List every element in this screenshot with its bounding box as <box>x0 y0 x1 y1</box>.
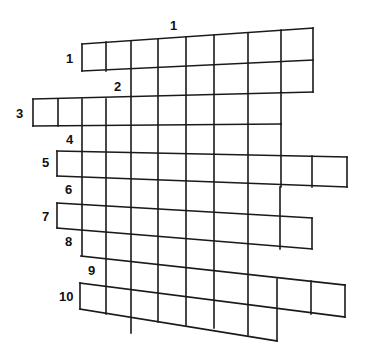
grid-line-horizontal <box>82 60 313 71</box>
grid-line-horizontal <box>57 203 312 218</box>
grid-line-horizontal <box>57 151 347 157</box>
grid-line-horizontal <box>80 283 345 317</box>
clue-number-h4: 4 <box>66 133 73 146</box>
clue-number-h1: 1 <box>66 52 73 65</box>
clue-number-h10: 10 <box>59 290 73 303</box>
clue-number-h3: 3 <box>16 107 23 120</box>
crossword-grid <box>0 0 367 358</box>
clue-number-v2: 2 <box>114 80 121 93</box>
grid-lines <box>33 28 347 341</box>
clue-number-v1: 1 <box>170 19 177 32</box>
clue-number-h7: 7 <box>42 210 49 223</box>
grid-line-horizontal <box>81 256 345 285</box>
grid-line-horizontal <box>82 28 313 44</box>
grid-line-horizontal <box>57 176 347 187</box>
clue-number-h9: 9 <box>88 264 95 277</box>
grid-line-horizontal <box>57 228 312 249</box>
clue-number-h6: 6 <box>65 183 72 196</box>
clue-number-h5: 5 <box>42 156 49 169</box>
clue-number-h8: 8 <box>65 235 72 248</box>
grid-line-horizontal <box>33 124 281 126</box>
grid-line-horizontal <box>33 92 313 99</box>
